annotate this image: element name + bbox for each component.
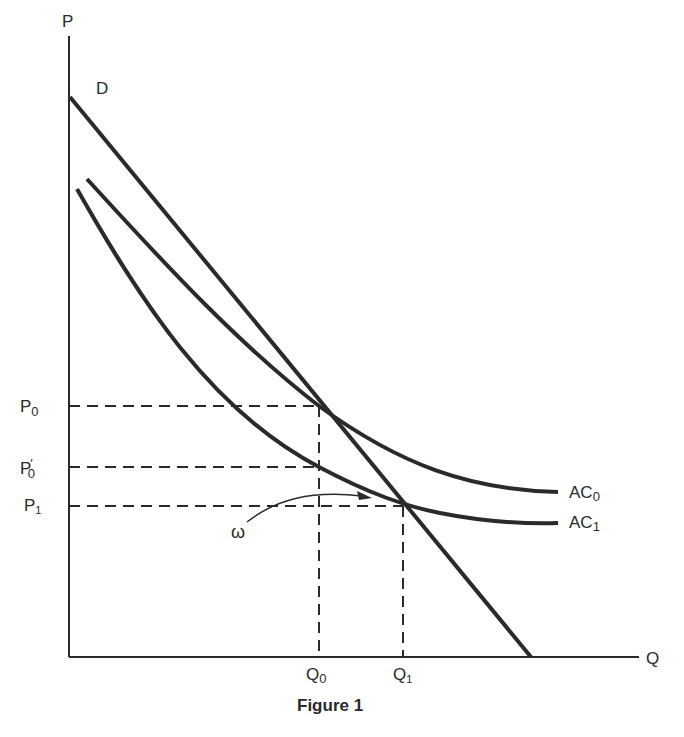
ac0-curve [87,179,558,492]
y-axis-label: P [62,12,73,31]
ac1-label: AC1 [569,513,600,534]
demand-curve [70,97,531,657]
quantity-label-q1: Q1 [393,665,412,685]
quantity-label-q0: Q0 [306,665,326,686]
ac0-label: AC0 [569,483,600,504]
omega-arrow [247,494,362,522]
demand-label: D [96,79,108,98]
omega-symbol: ω [231,522,245,542]
figure-caption: Figure 1 [297,696,363,715]
price-label-p0-prime: P′0 [20,456,35,481]
price-label-p0: P0 [20,397,39,419]
figure-diagram: P Q D AC0 AC1 P0 P′0 P1 Q0 Q1 ω Figure 1 [0,0,684,737]
ac1-curve [77,189,558,523]
price-label-p1: P1 [24,496,41,516]
x-axis-label: Q [646,649,659,668]
